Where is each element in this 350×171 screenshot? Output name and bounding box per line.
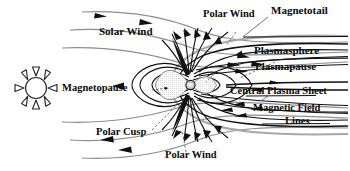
- label-magnetotail: Magnetotail: [271, 5, 328, 16]
- label-magnetopause: Magnetopause: [62, 83, 127, 94]
- label-plasmapause: Plasmapause: [255, 61, 316, 72]
- earth-icon: [186, 80, 195, 89]
- magnetosphere-diagram: Solar Wind Polar Wind Magnetotail Plasma…: [0, 0, 350, 171]
- label-central-plasma-sheet: Central Plasma Sheet: [230, 86, 327, 97]
- label-polar-wind-bottom: Polar Wind: [165, 150, 217, 161]
- sun-icon: [15, 67, 57, 109]
- label-solar-wind: Solar Wind: [99, 26, 153, 37]
- label-magnetic-field-lines-1: Magnetic Field: [253, 103, 320, 114]
- leader-magnetotail: [244, 17, 268, 36]
- label-polar-cusp: Polar Cusp: [96, 127, 146, 138]
- label-polar-wind-top: Polar Wind: [203, 9, 255, 20]
- label-magnetic-field-lines-2: Lines: [285, 116, 310, 127]
- label-plasmasphere: Plasmasphere: [254, 45, 319, 56]
